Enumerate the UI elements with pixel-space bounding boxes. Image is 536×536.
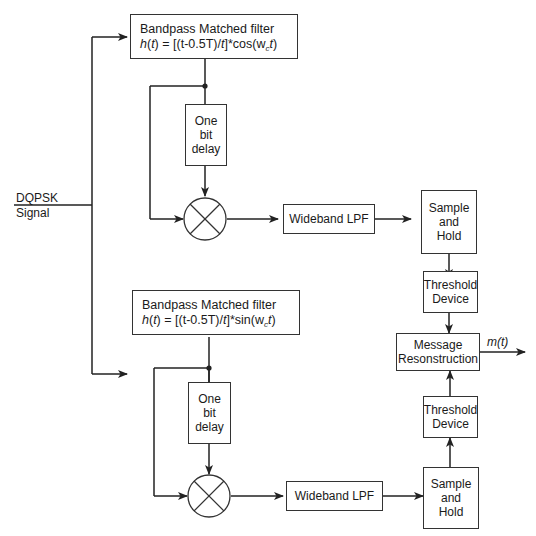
sh-line1: Sample [431,477,472,491]
delay-line3: delay [192,142,221,156]
th-line2: Device [432,417,469,431]
input-label-line2: Signal [16,206,49,220]
connection-wires [0,0,536,536]
lower-wideband-lpf: Wideband LPF [286,481,383,511]
sh-line2: and [439,215,459,229]
upper-sample-and-hold: Sample and Hold [421,190,477,254]
lpf-label: Wideband LPF [289,212,368,226]
sh-line2: and [441,491,461,505]
filter-title: Bandpass Matched filter [142,298,276,313]
th-line2: Device [432,292,469,306]
th-line1: Threshold [424,278,477,292]
filter-title: Bandpass Matched filter [140,22,274,37]
mr-line2: Resonstruction [398,352,478,366]
diagram-canvas: DQPSK Signal Bandpass Matched filter h(t… [0,0,536,536]
lower-sample-and-hold: Sample and Hold [423,467,479,529]
filter-equation: h(t) = [(t-0.5T)/t]*sin(wct) [142,313,276,328]
lower-bandpass-matched-filter: Bandpass Matched filter h(t) = [(t-0.5T)… [132,290,300,335]
output-label: m(t) [487,335,508,349]
delay-line1: One [198,392,221,406]
th-line1: Threshold [424,403,477,417]
lpf-label: Wideband LPF [295,489,374,503]
input-label-line1: DQPSK [16,191,58,205]
sh-line3: Hold [439,505,464,519]
message-reconstruction: Message Resonstruction [396,333,480,371]
upper-bandpass-matched-filter: Bandpass Matched filter h(t) = [(t-0.5T)… [130,14,298,59]
delay-line2: bit [203,406,216,420]
lower-threshold-device: Threshold Device [423,396,478,438]
delay-line1: One [195,114,218,128]
sh-line1: Sample [429,201,470,215]
delay-line3: delay [195,420,224,434]
upper-wideband-lpf: Wideband LPF [283,204,375,234]
sh-line3: Hold [437,229,462,243]
filter-equation: h(t) = [(t-0.5T)/t]*cos(wct) [140,37,277,52]
mr-line1: Message [414,338,463,352]
lower-one-bit-delay: One bit delay [188,382,231,444]
upper-one-bit-delay: One bit delay [185,104,227,166]
upper-threshold-device: Threshold Device [423,271,478,313]
delay-line2: bit [200,128,213,142]
